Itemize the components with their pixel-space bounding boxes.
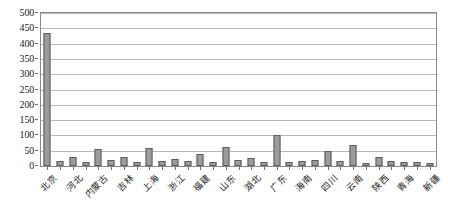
x-tick-mark xyxy=(111,167,112,170)
bar-slot xyxy=(398,13,411,166)
bar[interactable] xyxy=(273,135,280,166)
x-tick-mark xyxy=(239,167,240,170)
x-tick-label: 广东 xyxy=(267,172,289,194)
bar-slot xyxy=(309,13,322,166)
bar[interactable] xyxy=(299,161,306,167)
bar[interactable] xyxy=(82,162,89,166)
y-tick-label: 300 xyxy=(20,68,34,79)
bar-slot xyxy=(79,13,92,166)
y-tick-mark xyxy=(35,58,38,59)
x-tick-label: 新疆 xyxy=(420,172,442,194)
bar[interactable] xyxy=(413,162,420,166)
y-tick-label: 0 xyxy=(29,160,34,171)
x-tick-label: 湖北 xyxy=(242,172,264,194)
y-tick-mark xyxy=(35,134,38,135)
x-tick-label: 浙江 xyxy=(165,172,187,194)
bar[interactable] xyxy=(337,161,344,166)
x-tick-mark xyxy=(175,167,176,170)
bar-slot xyxy=(270,13,283,166)
bar[interactable] xyxy=(426,163,433,166)
bar-slot xyxy=(347,13,360,166)
y-tick-label: 50 xyxy=(24,144,34,155)
bar-slot xyxy=(258,13,271,166)
bar-slot xyxy=(105,13,118,166)
bar[interactable] xyxy=(210,162,217,166)
x-tick-mark xyxy=(430,167,431,170)
bar-slot xyxy=(372,13,385,166)
x-tick-label: 青海 xyxy=(394,172,416,194)
x-tick-label: 云南 xyxy=(343,172,365,194)
y-tick-mark xyxy=(35,73,38,74)
bar[interactable] xyxy=(362,163,369,166)
bar[interactable] xyxy=(146,148,153,166)
bar[interactable] xyxy=(235,160,242,166)
bar-slot xyxy=(283,13,296,166)
bar-slot xyxy=(207,13,220,166)
bar-slot xyxy=(181,13,194,166)
x-tick-mark xyxy=(264,167,265,170)
y-tick-label: 150 xyxy=(20,114,34,125)
bar-chart: 050100150200250300350400450500 北京河北内蒙古吉林… xyxy=(0,0,459,217)
x-tick-mark xyxy=(137,167,138,170)
y-tick-label: 100 xyxy=(20,129,34,140)
x-tick-mark xyxy=(124,167,125,170)
x-tick-mark xyxy=(188,167,189,170)
y-tick-label: 500 xyxy=(20,7,34,18)
bar-slot xyxy=(54,13,67,166)
bar[interactable] xyxy=(184,161,191,167)
bar[interactable] xyxy=(159,161,166,166)
x-tick-mark xyxy=(86,167,87,170)
x-tick-label: 福建 xyxy=(191,172,213,194)
x-tick-mark xyxy=(315,167,316,170)
bar-slot xyxy=(321,13,334,166)
y-tick-mark xyxy=(35,119,38,120)
x-tick-mark xyxy=(366,167,367,170)
y-tick-mark xyxy=(35,165,38,166)
x-tick-mark xyxy=(98,167,99,170)
y-tick-mark xyxy=(35,43,38,44)
bar[interactable] xyxy=(133,162,140,166)
bar[interactable] xyxy=(44,33,51,166)
bar[interactable] xyxy=(311,160,318,166)
bar[interactable] xyxy=(260,162,267,166)
y-tick-mark xyxy=(35,12,38,13)
bar-slot xyxy=(130,13,143,166)
bar-slot xyxy=(156,13,169,166)
bar[interactable] xyxy=(350,145,357,166)
bar-slot xyxy=(411,13,424,166)
x-tick-mark xyxy=(213,167,214,170)
x-tick-mark xyxy=(328,167,329,170)
bar[interactable] xyxy=(286,162,293,166)
bar[interactable] xyxy=(120,157,127,166)
bar-slot xyxy=(143,13,156,166)
bar[interactable] xyxy=(388,161,395,167)
bar[interactable] xyxy=(401,162,408,166)
y-tick-label: 400 xyxy=(20,37,34,48)
bar[interactable] xyxy=(171,159,178,166)
y-axis: 050100150200250300350400450500 xyxy=(0,12,38,167)
bars-layer xyxy=(41,13,436,166)
y-tick-mark xyxy=(35,89,38,90)
x-tick-mark xyxy=(353,167,354,170)
y-tick-label: 200 xyxy=(20,98,34,109)
bar[interactable] xyxy=(95,149,102,166)
bar[interactable] xyxy=(375,157,382,166)
bar-slot xyxy=(360,13,373,166)
bar[interactable] xyxy=(324,151,331,166)
x-tick-label: 北京 xyxy=(38,172,60,194)
y-tick-mark xyxy=(35,150,38,151)
bar[interactable] xyxy=(197,154,204,166)
bar-slot xyxy=(232,13,245,166)
x-tick-mark xyxy=(340,167,341,170)
x-tick-label: 吉林 xyxy=(114,172,136,194)
bar[interactable] xyxy=(222,147,229,166)
bar[interactable] xyxy=(57,161,64,167)
x-tick-mark xyxy=(162,167,163,170)
bar-slot xyxy=(385,13,398,166)
y-tick-label: 450 xyxy=(20,22,34,33)
bar[interactable] xyxy=(108,160,115,166)
x-tick-label: 海南 xyxy=(292,172,314,194)
x-axis: 北京河北内蒙古吉林上海浙江福建山东湖北广东海南四川云南陕西青海新疆 xyxy=(41,167,436,217)
bar[interactable] xyxy=(248,158,255,166)
bar[interactable] xyxy=(69,157,76,166)
